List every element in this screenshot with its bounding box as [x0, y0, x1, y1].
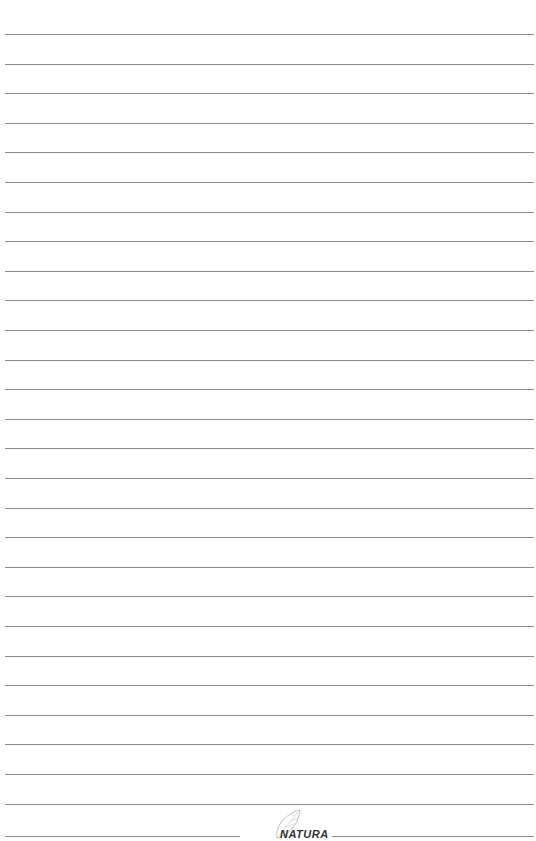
ruled-line [5, 419, 534, 420]
ruled-line [5, 241, 534, 242]
ruled-line [5, 182, 534, 183]
ruled-line [5, 448, 534, 449]
ruled-line [5, 596, 534, 597]
footer-line-left [5, 836, 240, 837]
ruled-line [5, 64, 534, 65]
logo-text: NATURA [280, 828, 329, 840]
ruled-line [5, 715, 534, 716]
ruled-line [5, 656, 534, 657]
ruled-line [5, 300, 534, 301]
ruled-line [5, 212, 534, 213]
ruled-line [5, 537, 534, 538]
ruled-line [5, 389, 534, 390]
ruled-line [5, 626, 534, 627]
ruled-line [5, 478, 534, 479]
footer-line-right [332, 836, 534, 837]
ruled-line [5, 804, 534, 805]
ruled-line [5, 123, 534, 124]
ruled-line [5, 330, 534, 331]
ruled-line [5, 271, 534, 272]
ruled-line [5, 774, 534, 775]
ruled-line [5, 685, 534, 686]
ruled-line [5, 93, 534, 94]
ruled-line [5, 360, 534, 361]
ruled-line [5, 152, 534, 153]
ruled-line [5, 508, 534, 509]
ruled-line [5, 34, 534, 35]
ruled-line [5, 567, 534, 568]
ruled-line [5, 744, 534, 745]
